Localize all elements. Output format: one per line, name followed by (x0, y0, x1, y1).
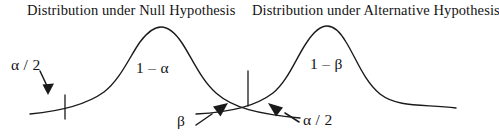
title-null-hypothesis: Distribution under Null Hypothesis (27, 3, 235, 18)
label-one-minus-alpha: 1 – α (136, 60, 169, 76)
label-alpha-half-right: α / 2 (303, 112, 332, 128)
curves-canvas (0, 0, 499, 140)
title-alternative-hypothesis: Distribution under Alternative Hypothesi… (252, 3, 499, 18)
label-beta: β (177, 113, 185, 129)
label-one-minus-beta: 1 – β (310, 56, 343, 72)
arrow-up-left-icon (268, 103, 299, 122)
label-alpha-half-left: α / 2 (11, 57, 40, 73)
power-curves-figure: Distribution under Null Hypothesis Distr… (0, 0, 499, 140)
arrow-down-right-icon (40, 71, 54, 95)
